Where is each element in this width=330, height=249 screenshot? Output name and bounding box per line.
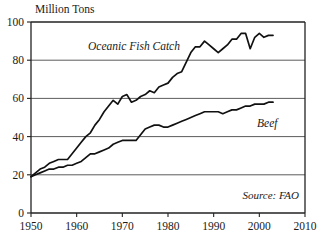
chart-background bbox=[0, 0, 330, 249]
line-chart: Million Tons 020406080100 19501960197019… bbox=[0, 0, 330, 249]
source-note: Source: FAO bbox=[242, 189, 299, 201]
y-tick-label-100: 100 bbox=[7, 16, 25, 28]
x-tick-label-1970: 1970 bbox=[111, 220, 134, 232]
series-label-oceanic-fish-catch: Oceanic Fish Catch bbox=[88, 40, 180, 52]
y-tick-label-40: 40 bbox=[13, 131, 25, 143]
x-tick-label-1950: 1950 bbox=[20, 220, 43, 232]
y-axis-title: Million Tons bbox=[35, 3, 95, 15]
x-tick-label-2010: 2010 bbox=[294, 220, 317, 232]
y-tick-label-0: 0 bbox=[18, 207, 24, 219]
y-tick-label-20: 20 bbox=[13, 169, 25, 181]
x-tick-label-1980: 1980 bbox=[157, 220, 180, 232]
series-label-beef: Beef bbox=[257, 117, 279, 130]
x-tick-label-2000: 2000 bbox=[248, 220, 271, 232]
chart-container: Million Tons 020406080100 19501960197019… bbox=[0, 0, 330, 249]
x-tick-label-1990: 1990 bbox=[202, 220, 225, 232]
y-tick-label-60: 60 bbox=[13, 92, 25, 104]
y-tick-label-80: 80 bbox=[13, 54, 25, 66]
x-tick-label-1960: 1960 bbox=[65, 220, 88, 232]
